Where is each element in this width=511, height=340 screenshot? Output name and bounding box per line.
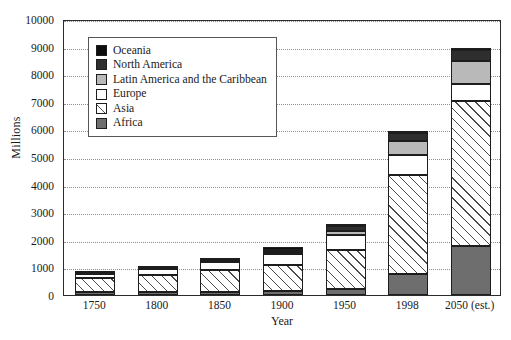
bar-segment-oceania xyxy=(138,266,178,268)
y-tick-0: 0 xyxy=(48,290,54,302)
x-axis-title: Year xyxy=(63,314,501,329)
bar-segment-europe xyxy=(388,155,428,175)
x-tick-1998: 1998 xyxy=(396,299,419,311)
bar-segment-africa xyxy=(200,292,240,295)
bar-segment-asia xyxy=(326,250,366,289)
legend-item-asia: Asia xyxy=(96,101,267,116)
legend-swatch-north xyxy=(96,59,107,70)
bar-segment-latin xyxy=(263,252,303,254)
legend-item-oceania: Oceania xyxy=(96,43,267,58)
bar-segment-asia xyxy=(263,265,303,291)
legend-item-latin: Latin America and the Caribbean xyxy=(96,72,267,87)
y-tick-3000: 3000 xyxy=(31,207,54,219)
bar-segment-north xyxy=(263,250,303,252)
bar-segment-latin xyxy=(451,61,491,83)
population-stacked-bar-chart: Millions 0100020003000400050006000700080… xyxy=(0,0,511,340)
legend-swatch-oceania xyxy=(96,45,107,56)
legend-label: Latin America and the Caribbean xyxy=(113,74,267,86)
bar-segment-asia xyxy=(451,101,491,246)
legend-label: Europe xyxy=(113,88,146,100)
bar-segment-africa xyxy=(326,289,366,295)
bar-segment-africa xyxy=(138,292,178,295)
legend-label: Africa xyxy=(113,117,143,129)
x-tick-1900: 1900 xyxy=(271,299,294,311)
bar-segment-africa xyxy=(75,292,115,295)
bar-1950 xyxy=(326,19,366,295)
y-tick-8000: 8000 xyxy=(31,69,54,81)
x-tick-1750: 1750 xyxy=(83,299,106,311)
y-tick-1000: 1000 xyxy=(31,262,54,274)
x-tick-2050: 2050 (est.) xyxy=(445,299,494,311)
bar-segment-europe xyxy=(263,254,303,265)
legend-label: Asia xyxy=(113,103,134,115)
bar-segment-europe xyxy=(451,84,491,101)
legend-swatch-europe xyxy=(96,89,107,100)
bar-segment-latin xyxy=(326,231,366,236)
bar-segment-oceania xyxy=(263,247,303,249)
bar-1998 xyxy=(388,19,428,295)
bar-segment-africa xyxy=(388,274,428,295)
y-axis-tick-labels: 0100020003000400050006000700080009000100… xyxy=(0,0,62,340)
bar-segment-africa xyxy=(263,291,303,295)
bar-segment-oceania xyxy=(75,271,115,273)
bar-segment-north xyxy=(326,226,366,231)
bar-segment-europe xyxy=(326,235,366,250)
bar-segment-north xyxy=(451,50,491,61)
bar-segment-oceania xyxy=(451,48,491,50)
x-tick-1800: 1800 xyxy=(145,299,168,311)
legend-item-europe: Europe xyxy=(96,87,267,102)
legend-swatch-asia xyxy=(96,103,107,114)
bar-2050 xyxy=(451,19,491,295)
legend-label: North America xyxy=(113,59,182,71)
chart-legend: OceaniaNorth AmericaLatin America and th… xyxy=(88,37,277,137)
bar-segment-africa xyxy=(451,246,491,295)
bar-segment-asia xyxy=(200,270,240,292)
y-tick-2000: 2000 xyxy=(31,235,54,247)
y-tick-9000: 9000 xyxy=(31,42,54,54)
y-tick-4000: 4000 xyxy=(31,180,54,192)
bar-segment-north xyxy=(388,133,428,141)
legend-swatch-africa xyxy=(96,118,107,129)
y-tick-7000: 7000 xyxy=(31,97,54,109)
bar-segment-oceania xyxy=(200,258,240,260)
bar-segment-asia xyxy=(388,175,428,274)
legend-label: Oceania xyxy=(113,45,151,57)
bar-segment-asia xyxy=(75,278,115,292)
bar-segment-europe xyxy=(200,262,240,270)
bar-segment-europe xyxy=(138,269,178,275)
bar-segment-oceania xyxy=(326,224,366,226)
y-tick-10000: 10000 xyxy=(25,14,54,26)
bar-segment-latin xyxy=(388,141,428,155)
y-tick-6000: 6000 xyxy=(31,124,54,136)
x-tick-1950: 1950 xyxy=(333,299,356,311)
bar-segment-asia xyxy=(138,275,178,293)
legend-item-north: North America xyxy=(96,58,267,73)
y-tick-5000: 5000 xyxy=(31,152,54,164)
bar-segment-europe xyxy=(75,274,115,278)
legend-swatch-latin xyxy=(96,74,107,85)
bar-segment-oceania xyxy=(388,131,428,133)
legend-item-africa: Africa xyxy=(96,116,267,131)
x-tick-1850: 1850 xyxy=(208,299,231,311)
